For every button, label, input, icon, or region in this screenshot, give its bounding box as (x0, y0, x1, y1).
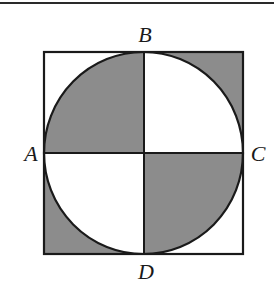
label-C: C (251, 141, 266, 166)
geometry-figure: B A C D (0, 0, 274, 294)
label-B: B (138, 22, 151, 47)
label-A: A (22, 141, 38, 166)
label-D: D (137, 259, 154, 284)
